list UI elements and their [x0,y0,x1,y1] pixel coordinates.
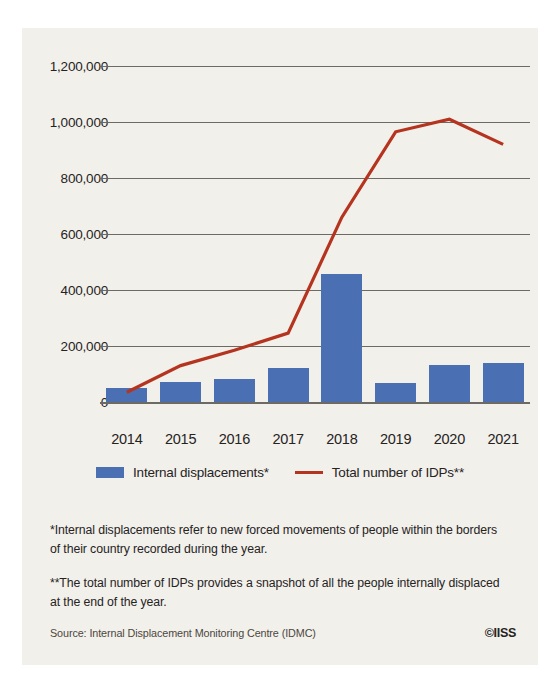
x-axis-tick-2018: 2018 [326,431,357,447]
bar-slot [261,28,315,428]
x-axis-labels: 20142015201620172018201920202021 [100,431,530,455]
source-label: Source: Internal Displacement Monitoring… [50,627,316,639]
bar-slot [369,28,423,428]
bar-slot [315,28,369,428]
x-axis-tick-2014: 2014 [111,431,142,447]
bar-swatch-icon [96,467,124,478]
bar-slot [208,28,262,428]
legend-label: Internal displacements* [133,465,269,480]
y-axis-labels: 1,200,0001,000,000800,000600,000400,0002… [22,28,108,428]
bar-2018[interactable] [321,274,362,402]
footnotes: *Internal displacements refer to new for… [50,521,510,627]
x-axis-tick-2020: 2020 [434,431,465,447]
bar-2020[interactable] [429,365,470,402]
bar-slot [476,28,530,428]
bar-2019[interactable] [375,383,416,402]
bar-2014[interactable] [106,388,147,402]
plot-area: 1,200,0001,000,000800,000600,000400,0002… [22,28,538,428]
source-row: Source: Internal Displacement Monitoring… [50,626,516,640]
x-axis-tick-2019: 2019 [380,431,411,447]
x-axis-tick-2015: 2015 [165,431,196,447]
footnote-1: *Internal displacements refer to new for… [50,521,510,559]
bar-2021[interactable] [483,363,524,402]
page-top-text-sliver [60,0,280,8]
footnote-2: **The total number of IDPs provides a sn… [50,574,510,612]
bar-slot [423,28,477,428]
bar-series [100,28,530,428]
line-swatch-icon [295,471,323,474]
bar-2015[interactable] [160,382,201,402]
legend-item-2[interactable]: Total number of IDPs** [295,465,464,480]
publisher-credit: ©IISS [485,626,516,640]
chart-legend: Internal displacements*Total number of I… [22,465,538,480]
legend-item-1[interactable]: Internal displacements* [96,465,269,480]
bar-slot [100,28,154,428]
bar-slot [154,28,208,428]
bar-2016[interactable] [214,379,255,402]
x-axis-tick-2021: 2021 [488,431,519,447]
x-axis-tick-2017: 2017 [273,431,304,447]
legend-label: Total number of IDPs** [332,465,464,480]
bar-2017[interactable] [268,368,309,402]
chart-figure: 1,200,0001,000,000800,000600,000400,0002… [22,28,538,665]
x-axis-tick-2016: 2016 [219,431,250,447]
